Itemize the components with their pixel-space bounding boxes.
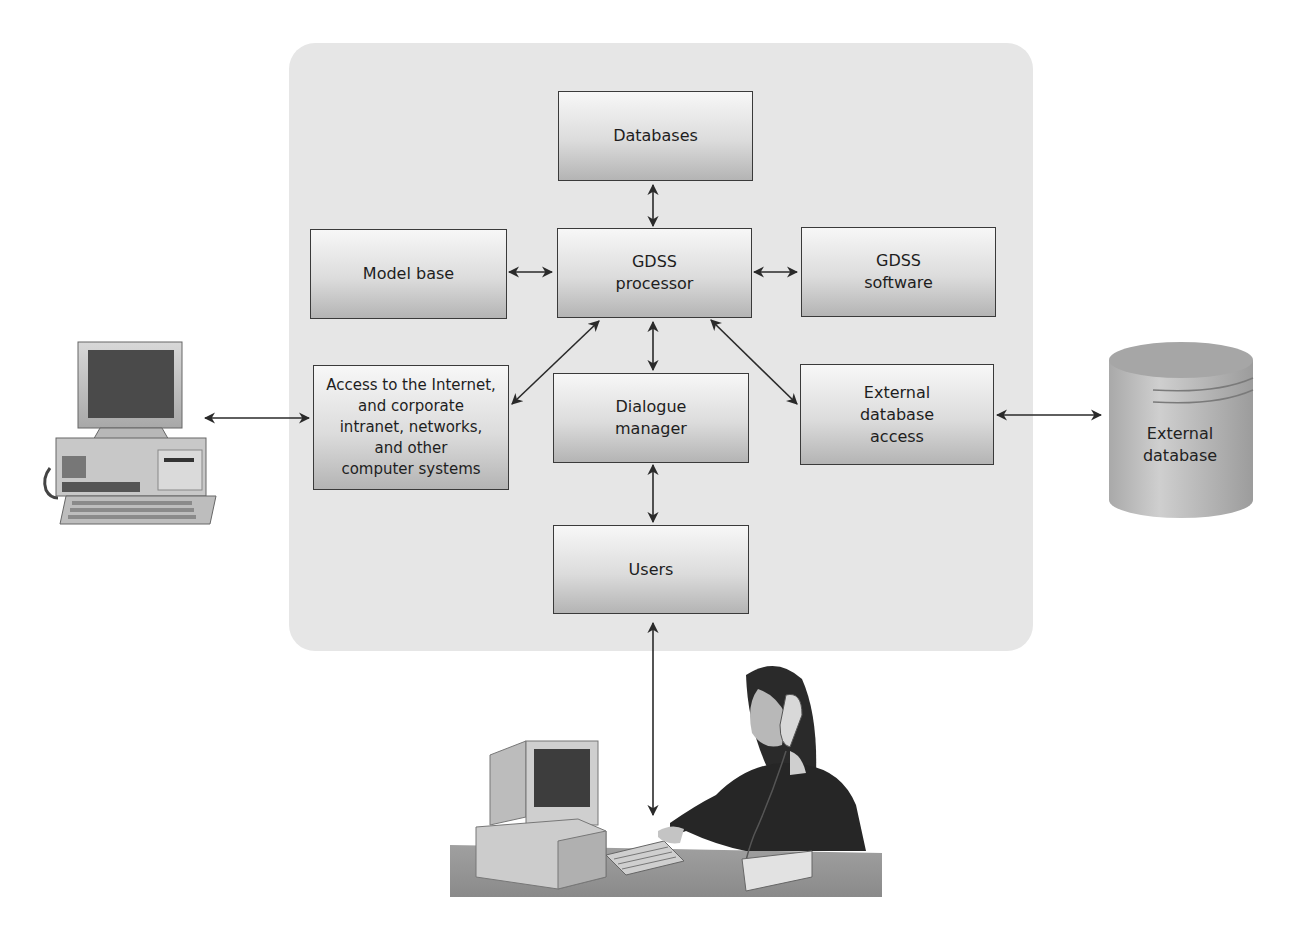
node-label: GDSS processor bbox=[616, 251, 694, 295]
node-label: Model base bbox=[363, 263, 454, 285]
node-model-base: Model base bbox=[310, 229, 507, 319]
node-external-db-access: External database access bbox=[800, 364, 994, 465]
node-databases: Databases bbox=[558, 91, 753, 181]
node-label: Access to the Internet, and corporate in… bbox=[326, 375, 496, 480]
node-gdss-processor: GDSS processor bbox=[557, 228, 752, 318]
user-at-workstation-icon bbox=[446, 655, 886, 905]
node-gdss-software: GDSS software bbox=[801, 227, 996, 317]
desktop-computer-icon bbox=[40, 338, 220, 528]
node-label: Users bbox=[629, 559, 674, 581]
node-dialogue-manager: Dialogue manager bbox=[553, 373, 749, 463]
node-label: Dialogue manager bbox=[615, 396, 687, 440]
node-users: Users bbox=[553, 525, 749, 614]
node-label: GDSS software bbox=[864, 250, 933, 294]
node-access-internet: Access to the Internet, and corporate in… bbox=[313, 365, 509, 490]
external-database-label: External database bbox=[1109, 423, 1251, 467]
node-label: External database access bbox=[860, 382, 934, 448]
node-label: Databases bbox=[613, 125, 698, 147]
